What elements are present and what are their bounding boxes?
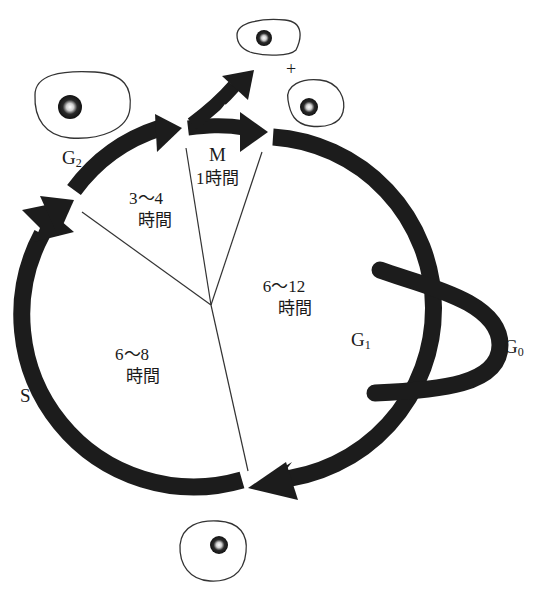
m-phase-label: M <box>209 145 226 164</box>
g0-phase-label: G0 <box>504 337 524 358</box>
daughter-cell-2 <box>288 80 344 127</box>
g2-duration-unit: 時間 <box>120 210 172 232</box>
g1-phase-label: G1 <box>351 330 371 351</box>
s-duration-value: 6〜8 <box>104 344 160 366</box>
daughter-cell-1 <box>237 20 300 56</box>
g2-duration-value: 3〜4 <box>120 188 172 210</box>
m-phase-arrow <box>188 70 268 152</box>
m-duration-value: 1時間 <box>196 168 239 190</box>
g1-duration-value: 6〜12 <box>256 276 312 298</box>
s-duration-unit: 時間 <box>104 366 160 388</box>
phase-divider-lines <box>82 148 262 471</box>
g1-duration: 6〜12 時間 <box>256 276 312 320</box>
plus-sign: + <box>286 60 296 78</box>
s-duration: 6〜8 時間 <box>104 344 160 388</box>
g2-cell <box>35 72 130 139</box>
g1-cell <box>180 521 246 581</box>
divider-g1-s <box>211 305 248 471</box>
nucleus-icon <box>300 98 318 116</box>
nucleus-icon <box>58 95 82 119</box>
g2-duration: 3〜4 時間 <box>120 188 172 232</box>
m-duration: 1時間 <box>196 168 239 190</box>
nucleus-icon <box>256 30 272 46</box>
s-phase-label: S <box>20 386 31 405</box>
nucleus-icon <box>210 536 228 554</box>
g1-duration-unit: 時間 <box>256 298 312 320</box>
g2-phase-label: G2 <box>62 148 82 169</box>
s-phase-arrow <box>22 196 242 487</box>
g2-phase-arrow <box>74 114 182 190</box>
